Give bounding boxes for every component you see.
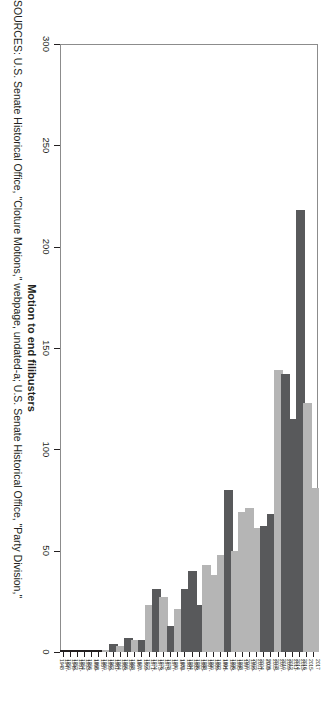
category-axis-tick [98,652,99,657]
category-axis-tick [227,652,228,657]
category-axis-label-line: 1994 [223,659,228,671]
category-axis-label-line: 1964 [116,659,121,671]
category-axis-tick [70,652,71,657]
category-axis-tick [120,652,121,657]
category-axis-tick [177,652,178,657]
category-axis-tick [256,652,257,657]
category-axis-label-line: 2016 [302,659,307,671]
category-axis-tick [170,652,171,657]
category-axis-tick [299,652,300,657]
category-axis-tick [184,652,185,657]
bar-row [310,44,319,652]
plot-area [60,44,318,652]
category-axis-tick [192,652,193,657]
category-axis-tick [163,652,164,657]
filibuster-cloture-bar-chart: 050100150200250300 Motion to end filibus… [0,0,330,702]
value-axis-tick [54,551,60,552]
category-axis-label-line: 1954 [80,659,85,671]
category-axis-tick [77,652,78,657]
category-axis-label-line: 2004 [259,659,264,671]
category-axis-label-line: 1998 [237,659,242,671]
category-axis-tick [242,652,243,657]
value-axis-tick-label: 0 [41,649,52,654]
category-axis-tick [263,652,264,657]
category-axis-label-line: 1956 [87,659,92,671]
category-axis-tick [149,652,150,657]
category-axis-label-line: 1976 [159,659,164,671]
category-axis-tick [285,652,286,657]
category-axis-tick [220,652,221,657]
category-axis-label-line: 1974 [151,659,156,671]
category-axis-label-line: 1980 [173,659,178,671]
category-axis-label-line: 1972 [144,659,149,671]
category-axis-label-line: 2015- [307,659,312,671]
category-axis-label-line: 1982 [180,659,185,671]
value-axis-tick [54,247,60,248]
category-axis-tick [84,652,85,657]
bar [310,488,319,652]
category-axis-label-line: 1990 [209,659,214,671]
value-axis-tick [54,449,60,450]
bar-series [60,44,318,652]
category-axis-label-line: 1978 [166,659,171,671]
category-axis-label-line: 2006 [266,659,271,671]
value-axis-tick-label: 150 [41,340,52,356]
category-axis-tick [63,652,64,657]
category-axis-tick [199,652,200,657]
category-axis-tick [249,652,250,657]
category-axis-label-line: 2000 [245,659,250,671]
category-axis-label-line: 1950 [65,659,70,671]
category-axis-tick [292,652,293,657]
category-axis-label-line: 1948 [58,659,63,671]
category-axis-label-line: 1996 [230,659,235,671]
category-axis-label-line: 1988 [202,659,207,671]
category-axis-label-line: 1970 [137,659,142,671]
category-axis-label-line: 2017 [314,659,319,670]
category-axis-tick [156,652,157,657]
category-axis-tick [213,652,214,657]
source-note: SOURCES: U.S. Senate Historical Office, … [11,0,24,702]
category-axis-label-line: 1952 [73,659,78,671]
category-axis-tick [306,652,307,657]
value-axis-tick-label: 200 [41,239,52,255]
category-axis-label-line: 2010 [280,659,285,671]
category-axis-tick [113,652,114,657]
value-axis-tick-label: 100 [41,441,52,457]
rotated-figure-container: 050100150200250300 Motion to end filibus… [0,0,330,702]
category-axis-tick [127,652,128,657]
category-axis-label-line: 1986 [194,659,199,671]
value-axis-tick [54,44,60,45]
value-axis-tick-label: 50 [41,545,52,556]
category-axis-label-line: 1966 [123,659,128,671]
value-axis-title: Motion to end filibusters [26,44,38,652]
category-axis-tick [313,652,314,657]
category-axis-tick [206,652,207,657]
category-axis-tick [278,652,279,657]
category-axis-label-line: 1962 [108,659,113,671]
value-axis-tick-label: 300 [41,36,52,52]
category-axis-tick [106,652,107,657]
category-axis-label-line: 1958 [94,659,99,671]
category-axis-label-line: 1992 [216,659,221,671]
category-axis-label-line: 1984 [187,659,192,671]
value-axis-tick [54,348,60,349]
category-axis-label-line: 1968 [130,659,135,671]
category-axis-tick [134,652,135,657]
value-axis-tick [54,145,60,146]
category-axis-label-line: 2002 [252,659,257,671]
category-axis-label-line: 2012 [288,659,293,671]
category-axis-label-line: 2008 [273,659,278,671]
category-axis-tick [270,652,271,657]
category-axis-label: 2017 [314,659,319,670]
category-axis: 1947-19481949-19501951-19521953-19541955… [60,652,318,700]
category-axis-label-line: 2014 [295,659,300,671]
category-axis-tick [91,652,92,657]
category-axis-tick [141,652,142,657]
value-axis-tick-label: 250 [41,137,52,153]
category-axis-label: 2015-2016 [302,659,313,671]
category-axis-label-line: 1960 [101,659,106,671]
category-axis-tick [235,652,236,657]
